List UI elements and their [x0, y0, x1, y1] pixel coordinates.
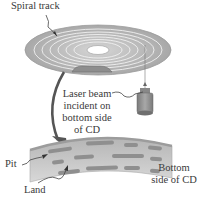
magnified-region — [72, 66, 112, 72]
bottom-side-label-line-1: Bottom — [148, 162, 198, 174]
laser-beam-label: Laser beam incident on bottom side of CD — [58, 88, 116, 136]
laser-beam-label-line-2: incident on — [58, 100, 116, 112]
disc-center-hole — [87, 46, 109, 55]
beam-arrow-icon — [143, 82, 147, 86]
bottom-side-label-line-2: side of CD — [148, 174, 198, 186]
compact-disc — [25, 25, 171, 75]
spiral-track-label: Spiral track — [11, 0, 60, 12]
land-label: Land — [24, 184, 46, 196]
pit-label: Pit — [5, 158, 17, 170]
laser-beam-label-line-3: bottom side — [58, 112, 116, 124]
bottom-side-label: Bottom side of CD — [148, 162, 198, 186]
laser-beam-label-line-4: of CD — [58, 124, 116, 136]
laser-device — [137, 88, 153, 116]
laser-beam-label-line-1: Laser beam — [58, 88, 116, 100]
